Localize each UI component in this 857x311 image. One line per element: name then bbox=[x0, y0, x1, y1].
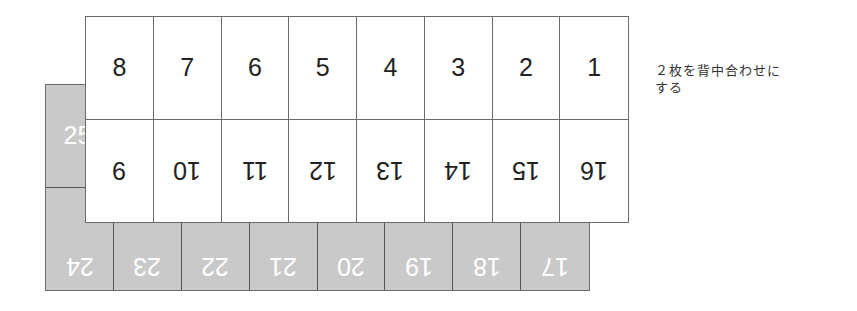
front-page-cell: 11 bbox=[222, 120, 290, 223]
page-number: 9 bbox=[112, 156, 126, 185]
note-line-1: ２枚を背中合わせに bbox=[655, 62, 835, 79]
page-number: 4 bbox=[383, 53, 397, 82]
page-number: 23 bbox=[133, 252, 161, 281]
page-number: 15 bbox=[512, 156, 540, 185]
front-page-cell: 4 bbox=[357, 17, 425, 120]
page-number: 1 bbox=[587, 53, 601, 82]
front-page-cell: 1 bbox=[560, 17, 628, 120]
front-page-cell: 10 bbox=[154, 120, 222, 223]
front-page-cell: 6 bbox=[222, 17, 290, 120]
front-page-cell: 9 bbox=[86, 120, 154, 223]
note-line-2: する bbox=[655, 79, 835, 96]
instruction-note: ２枚を背中合わせに する bbox=[655, 62, 835, 96]
front-sheet-grid: 8 7 6 5 4 3 2 1 9 10 11 12 13 14 15 16 bbox=[86, 17, 628, 222]
front-page-cell: 13 bbox=[357, 120, 425, 223]
front-page-cell: 2 bbox=[493, 17, 561, 120]
page-number: 19 bbox=[405, 252, 433, 281]
page-number: 12 bbox=[309, 156, 337, 185]
page-number: 10 bbox=[173, 156, 201, 185]
front-page-cell: 14 bbox=[425, 120, 493, 223]
page-number: 14 bbox=[444, 156, 472, 185]
page-number: 21 bbox=[269, 252, 297, 281]
page-number: 22 bbox=[201, 252, 229, 281]
front-page-cell: 16 bbox=[560, 120, 628, 223]
page-number: 3 bbox=[451, 53, 465, 82]
page-number: 13 bbox=[376, 156, 404, 185]
page-number: 16 bbox=[580, 156, 608, 185]
page-number: 8 bbox=[112, 53, 126, 82]
page-number: 11 bbox=[242, 156, 268, 185]
page-number: 2 bbox=[519, 53, 533, 82]
front-page-cell: 5 bbox=[289, 17, 357, 120]
page-number: 18 bbox=[473, 252, 501, 281]
page-number: 17 bbox=[541, 252, 569, 281]
page-number: 5 bbox=[316, 53, 330, 82]
page-number: 7 bbox=[180, 53, 194, 82]
page-number: 20 bbox=[337, 252, 365, 281]
page-number: 24 bbox=[66, 252, 94, 281]
front-page-cell: 7 bbox=[154, 17, 222, 120]
front-page-cell: 15 bbox=[493, 120, 561, 223]
front-page-cell: 12 bbox=[289, 120, 357, 223]
front-page-cell: 3 bbox=[425, 17, 493, 120]
front-sheet: 8 7 6 5 4 3 2 1 9 10 11 12 13 14 15 16 bbox=[85, 16, 629, 223]
front-page-cell: 8 bbox=[86, 17, 154, 120]
page-number: 6 bbox=[248, 53, 262, 82]
